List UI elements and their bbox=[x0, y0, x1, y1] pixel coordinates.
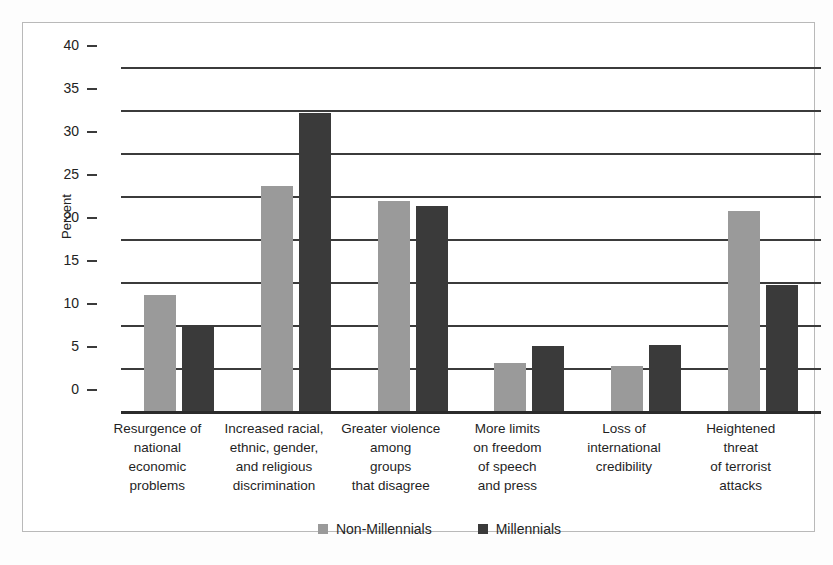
y-axis-tick-label: 5 bbox=[33, 339, 79, 353]
category-label-line: ethnic, gender, bbox=[216, 438, 333, 457]
category-label-line: of speech bbox=[449, 457, 566, 476]
x-axis-category-label: More limitson freedomof speechand press bbox=[449, 419, 566, 495]
y-axis-tick-label: 15 bbox=[33, 253, 79, 267]
bar-non-millennials bbox=[494, 363, 526, 411]
category-label-line: economic bbox=[99, 457, 216, 476]
legend-item: Non-Millennials bbox=[318, 521, 432, 537]
category-label-line: Increased racial, bbox=[216, 419, 333, 438]
legend-label: Millennials bbox=[496, 521, 561, 537]
y-axis-tick-mark bbox=[87, 45, 97, 47]
bar-millennials bbox=[649, 345, 681, 411]
legend-label: Non-Millennials bbox=[336, 521, 432, 537]
bar-non-millennials bbox=[728, 211, 760, 411]
bar-millennials bbox=[416, 206, 448, 411]
gridline bbox=[121, 110, 821, 112]
category-label-line: attacks bbox=[682, 476, 799, 495]
y-axis-tick-label: 0 bbox=[33, 382, 79, 396]
y-axis-tick-mark bbox=[87, 389, 97, 391]
bar-millennials bbox=[299, 113, 331, 411]
y-axis-tick-mark bbox=[87, 131, 97, 133]
category-label-line: problems bbox=[99, 476, 216, 495]
x-axis-category-label: Increased racial,ethnic, gender,and reli… bbox=[216, 419, 333, 495]
y-axis-tick-mark bbox=[87, 88, 97, 90]
category-label-line: threat bbox=[682, 438, 799, 457]
gridline bbox=[121, 196, 821, 198]
y-axis-tick-mark bbox=[87, 217, 97, 219]
category-label-line: discrimination bbox=[216, 476, 333, 495]
legend-item: Millennials bbox=[478, 521, 561, 537]
category-label-line: among bbox=[332, 438, 449, 457]
category-label-line: national bbox=[99, 438, 216, 457]
category-label-line: that disagree bbox=[332, 476, 449, 495]
category-label-line: groups bbox=[332, 457, 449, 476]
legend-swatch-icon bbox=[478, 524, 488, 534]
bar-millennials bbox=[766, 285, 798, 411]
bar-millennials bbox=[182, 325, 214, 411]
gridline bbox=[121, 153, 821, 155]
x-axis-category-label: Heightenedthreatof terroristattacks bbox=[682, 419, 799, 495]
y-axis-tick-mark bbox=[87, 174, 97, 176]
figure-canvas: Percent 4035302520151050 Resurgence ofna… bbox=[0, 0, 833, 565]
y-axis-tick-mark bbox=[87, 346, 97, 348]
bar-non-millennials bbox=[378, 201, 410, 411]
gridline bbox=[121, 282, 821, 284]
gridline bbox=[121, 67, 821, 69]
y-axis-tick-label: 40 bbox=[33, 38, 79, 52]
category-label-line: international bbox=[566, 438, 683, 457]
gridline bbox=[121, 325, 821, 327]
plot-area bbox=[121, 67, 821, 411]
category-label-line: Resurgence of bbox=[99, 419, 216, 438]
category-label-line: Heightened bbox=[682, 419, 799, 438]
bar-millennials bbox=[532, 346, 564, 411]
legend-swatch-icon bbox=[318, 524, 328, 534]
category-label-line: More limits bbox=[449, 419, 566, 438]
x-axis-category-label: Greater violenceamonggroupsthat disagree bbox=[332, 419, 449, 495]
chart-legend: Non-MillennialsMillennials bbox=[23, 521, 833, 537]
y-axis-tick-label: 30 bbox=[33, 124, 79, 138]
gridline bbox=[121, 411, 821, 414]
x-axis-category-label: Resurgence ofnationaleconomicproblems bbox=[99, 419, 216, 495]
y-axis-tick-label: 35 bbox=[33, 81, 79, 95]
y-axis-tick-mark bbox=[87, 260, 97, 262]
category-label-line: Loss of bbox=[566, 419, 683, 438]
y-axis-tick-label: 20 bbox=[33, 210, 79, 224]
y-axis-tick-label: 10 bbox=[33, 296, 79, 310]
x-axis-category-label: Loss ofinternationalcredibility bbox=[566, 419, 683, 476]
gridline bbox=[121, 239, 821, 241]
category-label-line: and religious bbox=[216, 457, 333, 476]
category-label-line: credibility bbox=[566, 457, 683, 476]
y-axis-tick-mark bbox=[87, 303, 97, 305]
bar-non-millennials bbox=[611, 366, 643, 411]
bar-non-millennials bbox=[261, 186, 293, 411]
gridline bbox=[121, 368, 821, 370]
bar-non-millennials bbox=[144, 295, 176, 411]
category-label-line: Greater violence bbox=[332, 419, 449, 438]
y-axis-tick-label: 25 bbox=[33, 167, 79, 181]
chart-frame: Percent 4035302520151050 Resurgence ofna… bbox=[22, 22, 815, 532]
category-label-line: of terrorist bbox=[682, 457, 799, 476]
category-label-line: on freedom bbox=[449, 438, 566, 457]
category-label-line: and press bbox=[449, 476, 566, 495]
